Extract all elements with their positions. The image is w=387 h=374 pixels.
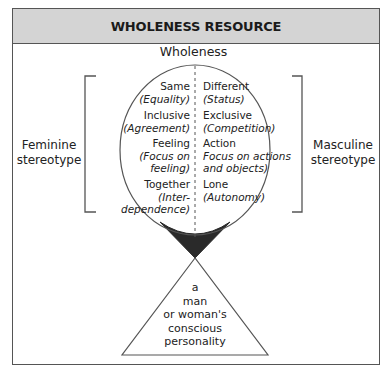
right-item-exclusive: Exclusive (Competition) <box>203 109 275 134</box>
term: Different <box>203 80 249 93</box>
right-item-lone: Lone (Autonomy) <box>203 178 265 203</box>
term: Together <box>121 178 190 191</box>
term: Exclusive <box>203 109 275 122</box>
note: feeling) <box>139 162 190 175</box>
feminine-label: Feminine stereotype <box>14 138 84 168</box>
term: Lone <box>203 178 265 191</box>
note: (Focus on <box>139 150 190 163</box>
left-item-together: Together (Inter- dependence) <box>121 178 190 216</box>
triangle-line: conscious <box>135 322 255 336</box>
note: (Inter- <box>121 191 190 204</box>
note: (Status) <box>203 93 249 106</box>
right-item-different: Different (Status) <box>203 80 249 105</box>
triangle-line: personality <box>135 335 255 349</box>
right-bracket <box>292 76 302 212</box>
right-item-action: Action Focus on actions and objects) <box>203 137 291 175</box>
diagram-title: Wholeness <box>0 44 387 59</box>
wedge-shape <box>160 222 230 258</box>
left-item-inclusive: Inclusive (Agreement) <box>123 109 190 134</box>
masculine-label: Masculine stereotype <box>305 138 381 168</box>
triangle-line: or woman's <box>135 308 255 322</box>
left-bracket <box>85 76 96 212</box>
note: Focus on actions <box>203 150 291 163</box>
triangle-text: a man or woman's conscious personality <box>135 281 255 349</box>
term: Action <box>203 137 291 150</box>
note: (Autonomy) <box>203 191 265 204</box>
note: (Agreement) <box>123 122 190 135</box>
feminine-label-line2: stereotype <box>14 153 84 168</box>
note: (Competition) <box>203 122 275 135</box>
note: dependence) <box>121 203 190 216</box>
triangle-line: a <box>135 281 255 295</box>
triangle-line: man <box>135 295 255 309</box>
term: Feeling <box>139 137 190 150</box>
masculine-label-line2: stereotype <box>305 153 381 168</box>
left-item-same: Same (Equality) <box>139 80 190 105</box>
note: (Equality) <box>139 93 190 106</box>
term: Same <box>139 80 190 93</box>
note: and objects) <box>203 162 291 175</box>
term: Inclusive <box>123 109 190 122</box>
feminine-label-line1: Feminine <box>14 138 84 153</box>
left-item-feeling: Feeling (Focus on feeling) <box>139 137 190 175</box>
masculine-label-line1: Masculine <box>305 138 381 153</box>
